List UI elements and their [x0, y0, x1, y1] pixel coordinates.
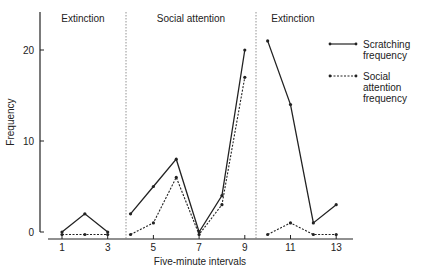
series-line: [268, 223, 337, 235]
y-tick-label: 20: [23, 45, 35, 56]
legend: ScratchingfrequencySocialattentionfreque…: [329, 39, 411, 104]
data-point: [266, 233, 269, 236]
series-social-attention: [60, 76, 337, 236]
legend-label: frequency: [363, 93, 407, 104]
legend-item-social-attention: Socialattentionfrequency: [329, 71, 407, 104]
data-point: [289, 221, 292, 224]
data-point: [152, 221, 155, 224]
phase-label: Extinction: [271, 13, 314, 24]
data-point: [335, 233, 338, 236]
legend-marker: [329, 75, 332, 78]
x-tick-label: 11: [285, 242, 296, 253]
legend-marker: [355, 75, 358, 78]
x-tick-label: 9: [242, 242, 248, 253]
data-point: [175, 158, 178, 161]
data-point: [335, 203, 338, 206]
x-tick-label: 1: [59, 242, 65, 253]
data-point: [198, 233, 201, 236]
data-point: [60, 233, 63, 236]
legend-marker: [355, 43, 358, 46]
x-tick-label: 13: [331, 242, 343, 253]
series-scratching: [60, 39, 337, 233]
y-axis-label: Frequency: [5, 98, 16, 145]
data-point: [83, 233, 86, 236]
phase-labels: ExtinctionSocial attentionExtinction: [61, 13, 314, 24]
legend-label: attention: [363, 82, 401, 93]
data-point: [129, 212, 132, 215]
series-line: [268, 41, 337, 223]
data-point: [243, 76, 246, 79]
x-tick-label: 3: [105, 242, 111, 253]
chart: 01020Frequency135791113Five-minute inter…: [0, 0, 421, 276]
data-point: [312, 233, 315, 236]
data-point: [106, 233, 109, 236]
legend-marker: [329, 43, 332, 46]
legend-item-scratching: Scratchingfrequency: [329, 39, 411, 61]
legend-label: Social: [363, 71, 390, 82]
y-tick-label: 0: [28, 227, 34, 238]
series-line: [62, 214, 108, 232]
series: [60, 39, 337, 236]
y-tick-label: 10: [23, 136, 35, 147]
data-point: [129, 233, 132, 236]
data-point: [312, 221, 315, 224]
legend-label: Scratching: [363, 39, 410, 50]
phase-label: Extinction: [61, 13, 104, 24]
x-tick-label: 7: [196, 242, 202, 253]
legend-label: frequency: [363, 50, 407, 61]
data-point: [175, 176, 178, 179]
data-point: [266, 39, 269, 42]
data-point: [220, 203, 223, 206]
x-axis-label: Five-minute intervals: [154, 256, 246, 267]
x-tick-label: 5: [151, 242, 157, 253]
data-point: [152, 185, 155, 188]
data-point: [243, 48, 246, 51]
data-point: [289, 103, 292, 106]
phase-label: Social attention: [157, 13, 225, 24]
axes: 01020Frequency135791113Five-minute inter…: [5, 12, 353, 267]
data-point: [83, 212, 86, 215]
